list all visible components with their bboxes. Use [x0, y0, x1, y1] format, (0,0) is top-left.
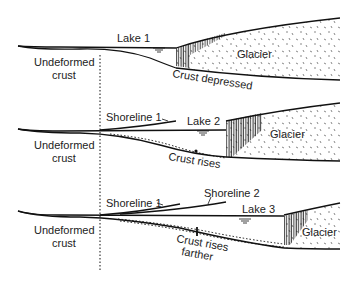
- crust-left-label: crust: [52, 152, 76, 164]
- crust-right-label: Crust rises: [168, 150, 222, 170]
- glacier-front-1: [176, 44, 190, 68]
- water-level-icon: [153, 48, 165, 52]
- water-level-icon: [239, 219, 251, 223]
- glacier-label: Glacier: [237, 48, 272, 60]
- shoreline-label: Shoreline 2: [204, 187, 260, 199]
- crust-left-label: crust: [52, 69, 76, 81]
- panel-2: Shoreline 1 Lake 2 Glacier Undeformed cr…: [18, 103, 340, 170]
- shoreline-label: Shoreline 1: [106, 111, 162, 123]
- glacier-label: Glacier: [270, 128, 305, 140]
- glacial-isostasy-diagram: Lake 1 Glacier Undeformed crust Crust de…: [0, 0, 358, 281]
- crust-left-label: Undeformed: [34, 224, 95, 236]
- lake-label: Lake 3: [242, 203, 275, 215]
- crust-left-label: crust: [52, 237, 76, 249]
- panel-3: Shoreline 1 Shoreline 2 Lake 3 Glacier U…: [18, 187, 340, 263]
- crust-left-label: Undeformed: [34, 56, 95, 68]
- panel-1: Lake 1 Glacier Undeformed crust Crust de…: [18, 18, 340, 92]
- glacier-label: Glacier: [302, 226, 337, 238]
- lake-label: Lake 2: [187, 115, 220, 127]
- shoreline-label: Shoreline 1: [106, 197, 162, 209]
- water-level-icon: [197, 131, 209, 135]
- lake-label: Lake 1: [117, 32, 150, 44]
- crust-left-label: Undeformed: [34, 139, 95, 151]
